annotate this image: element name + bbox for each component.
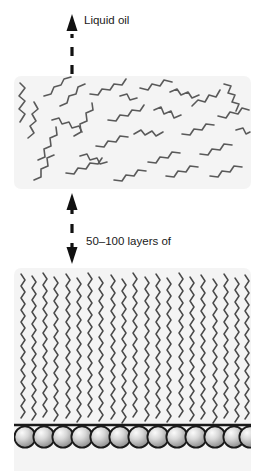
head-group-sphere [204, 426, 225, 447]
head-group-sphere [33, 426, 54, 447]
evaporation-arrow-head [67, 14, 78, 31]
head-group-sphere [147, 426, 168, 447]
head-group-sphere [128, 426, 149, 447]
plastic-crystal-chains [14, 268, 251, 471]
head-group-sphere [166, 426, 187, 447]
thickness-arrow-head-bottom [67, 247, 78, 264]
head-group-sphere [52, 426, 73, 447]
head-group-sphere [109, 426, 130, 447]
layer-count-line-1: 50–100 layers of [86, 235, 177, 249]
head-group-sphere [185, 426, 206, 447]
head-group-row [14, 426, 251, 447]
head-group-sphere [71, 426, 92, 447]
liquid-oil-label: Liquid oil [84, 14, 129, 28]
plastic-crystal-panel [14, 268, 251, 471]
liquid-oil-chains [14, 76, 251, 189]
head-group-sphere [14, 426, 35, 447]
layered-oil-diagram: Liquid oil [0, 0, 265, 471]
thickness-arrow-head-top [67, 193, 78, 210]
liquid-oil-panel [14, 76, 251, 189]
head-group-sphere [90, 426, 111, 447]
